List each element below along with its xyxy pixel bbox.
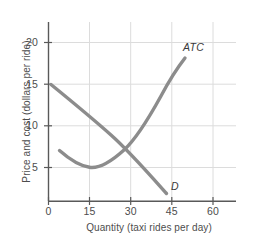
chart-figure: 20 15 10 5 0 15 30 45 60 Price and cost … bbox=[0, 0, 258, 244]
atc-curve bbox=[60, 58, 186, 168]
x-axis-title: Quantity (taxi rides per day) bbox=[49, 222, 249, 233]
y-axis-title: Price and cost (dollars per ride) bbox=[21, 27, 32, 197]
atc-curve-label: ATC bbox=[183, 41, 204, 53]
x-tick-label-45: 45 bbox=[161, 205, 183, 217]
x-tick-label-0: 0 bbox=[38, 205, 60, 217]
x-tick-label-60: 60 bbox=[202, 205, 224, 217]
x-tick-label-15: 15 bbox=[79, 205, 101, 217]
x-tick-label-30: 30 bbox=[120, 205, 142, 217]
demand-curve-label: D bbox=[171, 180, 179, 192]
demand-curve bbox=[51, 85, 167, 194]
